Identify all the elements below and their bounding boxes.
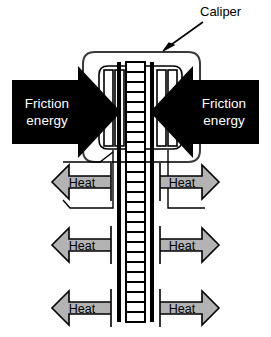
friction-right-label-line1: Friction [202,96,246,111]
heat-left-2-label: Heat [69,239,96,253]
heat-left-3-label: Heat [69,302,96,316]
heat-right-3-label: Heat [169,302,196,316]
diagram-canvas: Heat Heat Heat Heat Heat Heat Friction [0,0,271,337]
friction-right-label-line2: energy [203,113,245,128]
heat-left-1-label: Heat [69,176,96,190]
heat-right-1-label: Heat [169,176,196,190]
vented-brake-rotor [126,62,145,322]
brake-friction-heat-diagram: Heat Heat Heat Heat Heat Heat Friction [0,0,271,337]
caliper-callout-label: Caliper [200,4,242,19]
friction-left-label-line2: energy [26,113,68,128]
heat-right-2-label: Heat [169,239,196,253]
friction-left-label-line1: Friction [25,96,69,111]
